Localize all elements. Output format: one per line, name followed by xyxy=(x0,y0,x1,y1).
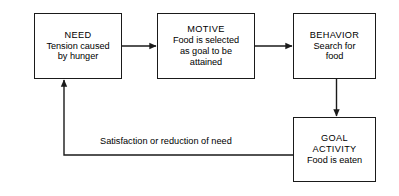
node-behavior-body: Search for food xyxy=(314,41,356,63)
flow-diagram: Satisfaction or reduction of need NEED T… xyxy=(0,0,399,196)
node-motive-line-2: as goal to be xyxy=(180,46,232,57)
node-need[interactable]: NEED Tension caused by hunger xyxy=(34,13,122,79)
node-need-line-2: by hunger xyxy=(58,51,98,62)
node-motive-body: Food is selected as goal to be attained xyxy=(173,35,239,68)
node-behavior-line-1: Search for xyxy=(314,41,356,52)
node-motive-title: MOTIVE xyxy=(187,24,224,35)
node-motive[interactable]: MOTIVE Food is selected as goal to be at… xyxy=(157,13,255,79)
feedback-edge-label: Satisfaction or reduction of need xyxy=(97,137,235,146)
node-motive-line-3: attained xyxy=(190,57,222,68)
node-need-title: NEED xyxy=(65,30,92,41)
node-goal-activity[interactable]: GOAL ACTIVITY Food is eaten xyxy=(293,117,376,182)
node-goal-line-1: Food is eaten xyxy=(307,155,362,166)
node-behavior[interactable]: BEHAVIOR Search for food xyxy=(293,13,376,79)
node-behavior-line-2: food xyxy=(326,51,344,62)
node-need-line-1: Tension caused xyxy=(46,41,109,52)
node-goal-body: Food is eaten xyxy=(307,155,362,166)
node-goal-title-2: ACTIVITY xyxy=(312,144,356,155)
node-behavior-title: BEHAVIOR xyxy=(310,30,360,41)
node-goal-title: GOAL xyxy=(321,133,348,144)
node-need-body: Tension caused by hunger xyxy=(46,41,109,63)
node-motive-line-1: Food is selected xyxy=(173,35,239,46)
